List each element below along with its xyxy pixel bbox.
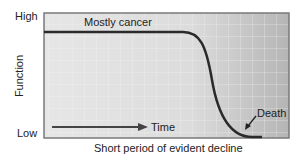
y-tick-high: High (15, 10, 38, 22)
y-tick-low: Low (17, 127, 37, 139)
time-label: Time (151, 121, 175, 133)
death-label: Death (257, 107, 286, 119)
x-axis-label: Short period of evident decline (94, 142, 243, 154)
y-axis-label: Function (13, 55, 25, 97)
series-label: Mostly cancer (84, 16, 152, 28)
